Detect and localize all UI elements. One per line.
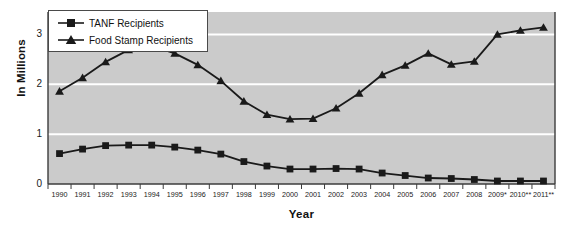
x-tick-label: 2008 [466,191,482,199]
x-tick-label: 2006 [420,191,436,199]
y-tick-label: 0 [26,179,42,189]
x-tick-label: 1994 [144,191,160,199]
x-tick-label: 2001 [305,191,321,199]
legend-item-food-stamp: Food Stamp Recipients [57,32,193,48]
data-point-marker [356,166,363,173]
x-tick-label: 2004 [374,191,390,199]
y-tick-label: 3 [26,29,42,39]
x-tick-label: 1999 [259,191,275,199]
x-tick-label: 1990 [52,191,68,199]
x-tick-label: 2010** [510,191,532,199]
y-tick-label: 2 [26,79,42,89]
data-point-marker [471,176,478,183]
x-tick-label: 1993 [121,191,137,199]
x-tick-label: 2002 [328,191,344,199]
x-tick-label: 1991 [75,191,91,199]
x-tick-label: 2007 [443,191,459,199]
data-point-marker [540,178,547,185]
data-point-marker [333,165,340,172]
x-tick-label: 2009* [488,191,507,199]
legend-label-tanf: TANF Recipients [89,18,164,29]
data-point-marker [240,158,247,165]
data-point-marker [102,142,109,149]
y-tick-label: 1 [26,129,42,139]
data-point-marker [494,178,501,185]
chart-container: In Millions 0123 19901991199219931994199… [0,0,573,234]
data-point-marker [125,142,132,149]
data-point-marker [517,178,524,185]
data-point-marker [448,175,455,182]
data-point-marker [171,144,178,151]
data-point-marker [402,172,409,179]
x-tick-label: 1995 [167,191,183,199]
x-tick-label: 1997 [213,191,229,199]
x-tick-marks [48,184,555,189]
data-point-marker [148,142,155,149]
chart-legend: TANF Recipients Food Stamp Recipients [48,10,208,52]
legend-item-tanf: TANF Recipients [57,15,164,31]
triangle-marker-icon [57,33,85,47]
legend-label-food-stamp: Food Stamp Recipients [89,35,193,46]
square-marker-icon [57,16,85,30]
data-point-marker [379,170,386,177]
data-point-marker [217,151,224,158]
x-axis-title: Year [48,208,555,220]
data-point-marker [79,146,86,153]
x-tick-label: 1996 [190,191,206,199]
data-point-marker [56,150,63,157]
data-point-marker [287,166,294,173]
data-point-marker [425,175,432,182]
x-tick-label: 2005 [397,191,413,199]
data-point-marker [310,166,317,173]
data-point-marker [264,163,271,170]
data-point-marker [194,147,201,154]
x-tick-label: 2000 [282,191,298,199]
x-tick-label: 2003 [351,191,367,199]
x-tick-label: 1992 [98,191,114,199]
x-tick-label: 2011** [533,191,554,199]
x-tick-label: 1998 [236,191,252,199]
